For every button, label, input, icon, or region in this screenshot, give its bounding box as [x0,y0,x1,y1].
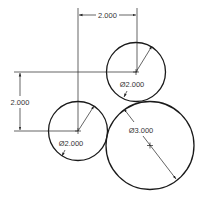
circle-large: Ø3.000 [106,102,194,190]
technical-drawing: 2.000 2.000 Ø2.000 Ø2.000 Ø3.000 [0,0,203,200]
upper-circle-diameter-label: Ø2.000 [120,80,145,89]
large-circle-diameter-label: Ø3.000 [129,126,154,135]
horizontal-dimension: 2.000 [79,11,136,20]
vertical-dimension: 2.000 [11,73,30,130]
lower-left-circle-diameter-label: Ø2.000 [59,139,84,148]
vertical-dimension-label: 2.000 [11,98,30,107]
extension-lines [14,8,137,131]
horizontal-dimension-label: 2.000 [98,11,117,20]
